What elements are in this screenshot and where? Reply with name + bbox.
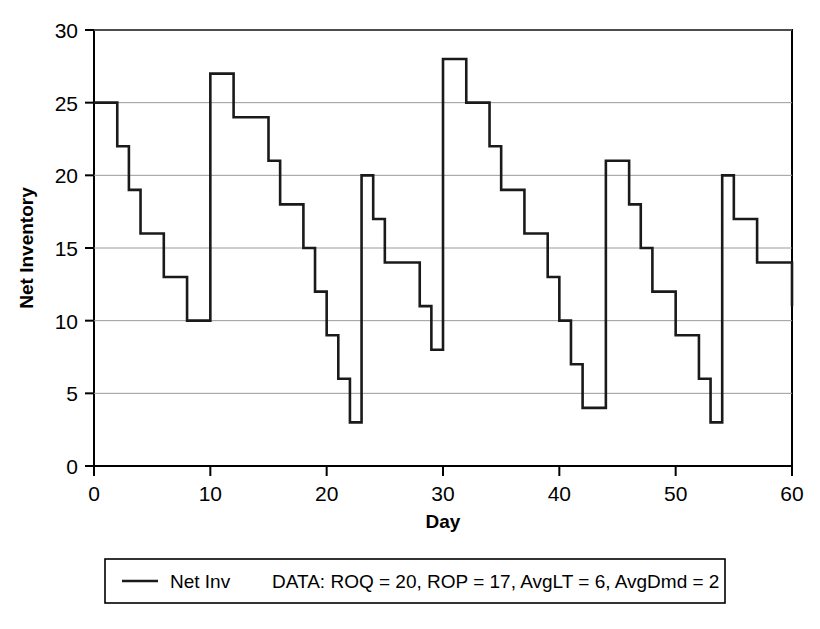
legend-data-note: DATA: ROQ = 20, ROP = 17, AvgLT = 6, Avg… [272,571,719,592]
x-tick-label-0: 0 [88,482,100,505]
y-tick-label-5: 5 [66,382,78,405]
x-tick-label-60: 60 [780,482,803,505]
x-tick-label-20: 20 [315,482,338,505]
chart-background [0,0,820,629]
y-tick-label-25: 25 [55,92,78,115]
y-tick-label-20: 20 [55,164,78,187]
legend-series-label: Net Inv [170,571,231,592]
y-tick-label-0: 0 [66,455,78,478]
x-tick-label-40: 40 [548,482,571,505]
net-inventory-chart: 051015202530 0102030405060 Net Inventory… [0,0,820,629]
x-tick-label-30: 30 [431,482,454,505]
x-axis-title: Day [426,511,461,532]
x-tick-label-50: 50 [664,482,687,505]
x-tick-label-10: 10 [199,482,222,505]
y-tick-label-10: 10 [55,310,78,333]
y-tick-label-30: 30 [55,19,78,42]
chart-canvas: 051015202530 0102030405060 Net Inventory… [0,0,820,629]
y-axis-title: Net Inventory [16,187,37,309]
y-tick-label-15: 15 [55,237,78,260]
